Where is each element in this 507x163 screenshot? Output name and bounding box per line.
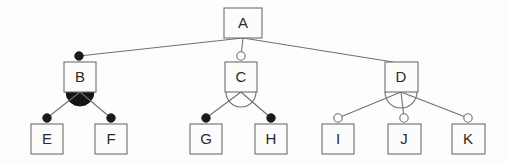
optional-circle-icon-k [464,114,472,122]
node-i-label: I [336,130,340,147]
node-d[interactable]: D [385,62,418,92]
feature-diagram-canvas: A B C D E F [0,0,507,163]
feature-diagram-svg: A B C D E F [0,0,507,163]
edge-a-d [243,38,393,62]
node-h-label: H [266,130,277,147]
edge-a-b [79,38,243,56]
mandatory-circle-icon-b [75,52,83,60]
optional-circle-icon-c [237,52,245,60]
node-c[interactable]: C [225,52,257,92]
mandatory-circle-icon-e [43,114,51,122]
node-f[interactable]: F [95,114,127,154]
group-arc-filled-b [66,92,94,106]
node-b[interactable]: B [64,52,96,92]
edge-group-root [79,38,393,62]
node-a[interactable]: A [224,8,262,38]
node-e[interactable]: E [31,114,63,154]
node-k-label: K [463,130,473,147]
node-i[interactable]: I [322,114,354,154]
mandatory-circle-icon-h [267,114,275,122]
edge-group-c [206,92,271,118]
node-h[interactable]: H [255,114,287,154]
optional-circle-icon-i [334,114,342,122]
node-b-label: B [75,68,85,85]
edge-c-g [206,92,241,118]
node-e-label: E [42,130,52,147]
mandatory-circle-icon-f [107,114,115,122]
node-a-label: A [238,14,248,31]
node-j[interactable]: J [388,114,421,154]
mandatory-circle-icon-g [202,114,210,122]
node-g-label: G [200,130,212,147]
node-k[interactable]: K [452,114,485,154]
node-j-label: J [400,130,408,147]
optional-circle-icon-j [400,114,408,122]
node-g[interactable]: G [190,114,222,154]
node-f-label: F [106,130,115,147]
node-c-label: C [236,68,247,85]
node-d-label: D [396,68,407,85]
